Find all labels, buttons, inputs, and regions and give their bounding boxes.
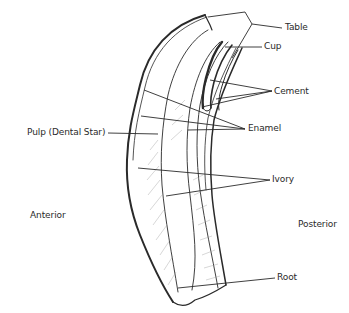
label-cement: Cement bbox=[274, 86, 309, 97]
label-pulp: Pulp (Dental Star) bbox=[27, 127, 105, 138]
label-anterior: Anterior bbox=[30, 210, 66, 221]
label-ivory: Ivory bbox=[272, 174, 294, 185]
label-cup: Cup bbox=[264, 41, 281, 52]
label-root: Root bbox=[277, 272, 297, 283]
tooth-shading bbox=[147, 100, 220, 285]
label-table: Table bbox=[285, 22, 308, 33]
label-enamel: Enamel bbox=[248, 123, 281, 134]
tooth-outline bbox=[127, 15, 242, 305]
label-posterior: Posterior bbox=[298, 219, 337, 230]
tooth-diagram bbox=[0, 0, 349, 313]
